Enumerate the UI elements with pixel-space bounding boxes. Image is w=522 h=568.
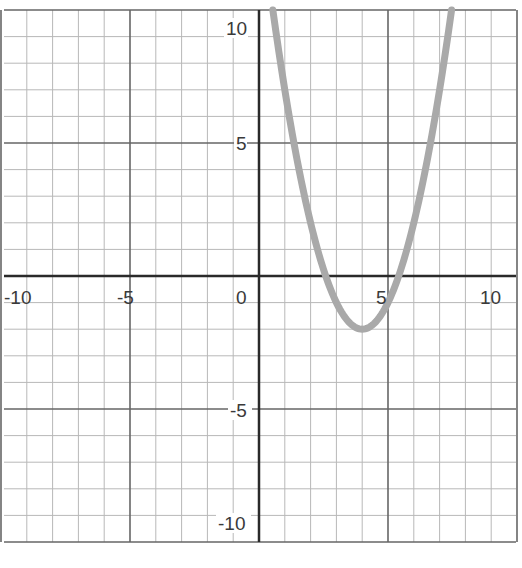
x-tick-label: 5 (376, 287, 387, 308)
coordinate-plane: -10-50510105-5-10 (0, 0, 522, 568)
y-tick-label: 5 (236, 133, 247, 154)
x-tick-label: 0 (236, 287, 247, 308)
y-tick-label: 10 (226, 18, 247, 39)
x-tick-label: -10 (4, 287, 31, 308)
x-tick-label: -5 (117, 287, 134, 308)
y-tick-label: -10 (218, 513, 245, 534)
y-tick-label: -5 (230, 400, 247, 421)
x-tick-label: 10 (480, 287, 501, 308)
